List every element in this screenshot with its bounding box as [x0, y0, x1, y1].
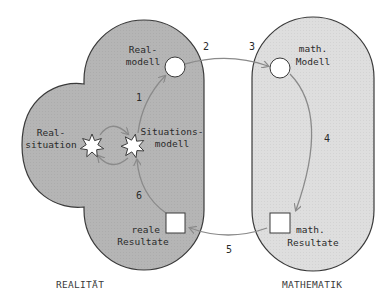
real-situation-label-line1: Real- — [37, 127, 66, 138]
math-model-label-line2: Modell — [296, 56, 330, 67]
real-model-label-line1: Real- — [129, 44, 158, 55]
step-1-label: 1 — [136, 92, 142, 103]
situation-model-label-line2: modell — [155, 138, 189, 149]
math-results-label-line2: Resultate — [287, 237, 339, 248]
real-situation-label-line2: situation — [25, 139, 76, 150]
real-results-label-line2: Resultate — [117, 236, 169, 247]
step-6-label: 6 — [136, 190, 142, 201]
math-model-label-line1: math. — [299, 43, 328, 54]
step-2-label: 2 — [203, 41, 209, 52]
real-model-label-line2: modell — [126, 56, 160, 67]
real-results-square-icon[interactable] — [166, 213, 185, 233]
math-model-circle-icon[interactable] — [270, 58, 290, 78]
real-model-circle-icon[interactable] — [165, 57, 185, 77]
situation-model-label-line1: Situations- — [141, 126, 204, 137]
math-results-label-line1: math. — [296, 224, 325, 235]
real-results-label-line1: reale — [131, 224, 160, 235]
step-3-label: 3 — [249, 41, 255, 52]
modelling-cycle-diagram: Real- modell math. Modell Real- situatio… — [0, 0, 392, 305]
math-results-square-icon[interactable] — [270, 213, 290, 233]
step-5-label: 5 — [226, 244, 232, 255]
mathematics-region-label: MATHEMATIK — [282, 279, 342, 290]
reality-region-label: REALITÄT — [56, 279, 104, 290]
step-4-label: 4 — [324, 133, 330, 144]
